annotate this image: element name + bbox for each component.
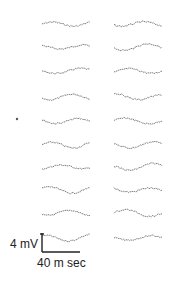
eeg-trace	[114, 235, 162, 241]
eeg-trace	[42, 44, 90, 49]
time-scale-label: 40 m sec	[37, 257, 86, 269]
eeg-trace	[114, 117, 162, 124]
eeg-trace	[42, 68, 90, 74]
eeg-trace	[42, 21, 90, 26]
trace-grid	[42, 21, 162, 242]
eeg-trace	[114, 21, 162, 27]
voltage-scale-label: 4 mV	[10, 238, 38, 250]
eeg-trace	[114, 163, 162, 171]
eeg-trace	[114, 187, 162, 192]
marker-dot	[16, 118, 18, 120]
eeg-trace	[42, 234, 90, 242]
eeg-trace	[42, 210, 90, 215]
eeg-trace	[42, 142, 90, 149]
eeg-trace	[42, 118, 90, 124]
eeg-trace	[42, 164, 90, 169]
eeg-trace	[114, 68, 162, 73]
eeg-trace	[114, 93, 162, 100]
eeg-trace	[114, 209, 162, 217]
eeg-trace	[114, 141, 162, 148]
eeg-trace	[42, 94, 90, 101]
eeg-trace	[114, 44, 162, 51]
eeg-trace	[42, 187, 90, 194]
